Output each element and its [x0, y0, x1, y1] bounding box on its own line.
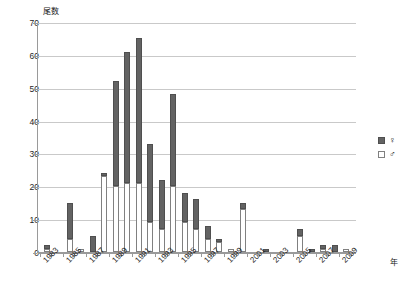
bar: [101, 173, 107, 252]
gridline: [38, 23, 356, 24]
bar: [136, 38, 142, 252]
bar: [170, 94, 176, 252]
gridline: [38, 56, 356, 57]
bar-segment-female: [113, 81, 119, 186]
legend-swatch-female-icon: [378, 137, 385, 144]
bar-segment-female: [147, 144, 153, 223]
bar-segment-female: [240, 203, 246, 210]
legend: ♀ ♂: [378, 133, 396, 161]
bar-segment-female: [297, 229, 303, 236]
bar: [182, 193, 188, 252]
bar: [147, 144, 153, 252]
x-tick-mark: [293, 253, 294, 257]
bar-segment-female: [193, 199, 199, 229]
bar-segment-female: [205, 226, 211, 239]
x-tick-mark: [224, 253, 225, 257]
bar: [205, 226, 211, 252]
bar-segment-male: [136, 183, 142, 252]
x-tick-mark: [40, 253, 41, 257]
bar-chart: 尾数 年 010203040506070 1983198519871989199…: [0, 0, 407, 301]
y-axis-title: 尾数: [43, 5, 59, 16]
bar-segment-female: [67, 203, 73, 239]
bar: [67, 203, 73, 252]
bar-segment-female: [320, 245, 326, 248]
x-tick-mark: [270, 253, 271, 257]
x-tick-mark: [132, 253, 133, 257]
x-tick-mark: [86, 253, 87, 257]
gridline: [38, 187, 356, 188]
bar: [193, 199, 199, 252]
bar-segment-female: [170, 94, 176, 186]
bar-segment-female: [101, 173, 107, 176]
gridline: [38, 154, 356, 155]
x-axis-title: 年: [390, 256, 398, 267]
bar-segment-female: [182, 193, 188, 223]
legend-item-male: ♂: [378, 147, 396, 161]
x-tick-mark: [109, 253, 110, 257]
x-tick-mark: [63, 253, 64, 257]
bar-segment-male: [240, 209, 246, 252]
bar: [240, 203, 246, 252]
y-tick-mark: [33, 253, 37, 254]
bar-segment-male: [170, 186, 176, 252]
bar: [113, 81, 119, 252]
bar-segment-female: [159, 180, 165, 229]
x-tick-mark: [178, 253, 179, 257]
bar: [159, 180, 165, 252]
bar-segment-male: [113, 186, 119, 252]
gridline: [38, 122, 356, 123]
x-tick-mark: [247, 253, 248, 257]
x-tick-mark: [155, 253, 156, 257]
gridline: [38, 89, 356, 90]
legend-swatch-male-icon: [378, 151, 385, 158]
legend-label-female: ♀: [389, 136, 396, 145]
bar: [124, 52, 130, 252]
bar-segment-female: [136, 38, 142, 183]
legend-item-female: ♀: [378, 133, 396, 147]
bar-segment-male: [159, 229, 165, 252]
bar-segment-male: [182, 222, 188, 252]
bar-segment-male: [124, 183, 130, 252]
bar-segment-female: [216, 239, 222, 242]
bar-segment-male: [101, 176, 107, 252]
plot-area: [37, 23, 355, 253]
x-tick-mark: [201, 253, 202, 257]
bar-segment-female: [124, 52, 130, 183]
legend-label-male: ♂: [389, 150, 396, 159]
bar-segment-female: [44, 245, 50, 248]
